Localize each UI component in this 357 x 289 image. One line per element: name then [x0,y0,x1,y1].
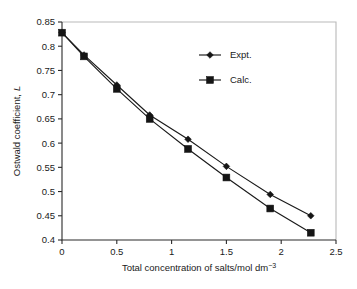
y-tick-label: 0.45 [37,210,56,221]
y-tick-label: 0.7 [42,89,55,100]
y-tick-label: 0.85 [37,16,56,27]
y-tick-label: 0.75 [37,65,56,76]
data-point-square [146,115,153,122]
legend-marker-square [207,77,214,84]
legend-entry-expt: Expt. [199,49,252,60]
x-tick-label: 0.5 [110,246,123,257]
data-point-square [81,53,88,60]
data-point-square [59,29,66,36]
data-point-diamond [307,212,314,219]
y-axis-tick-labels: 0.40.450.50.550.60.650.70.750.80.85 [37,16,56,245]
y-tick-label: 0.8 [42,41,55,52]
y-tick-label: 0.65 [37,113,56,124]
chart-canvas: 0.40.450.50.550.60.650.70.750.80.85 00.5… [0,0,357,289]
x-tick-label: 1 [169,246,174,257]
legend-label: Expt. [230,49,252,60]
chart-legend: Expt.Calc. [199,49,252,85]
data-point-square [223,174,230,181]
y-tick-label: 0.6 [42,138,55,149]
series-calc [59,29,315,236]
y-tick-label: 0.5 [42,186,55,197]
data-point-square [113,85,120,92]
series-line [62,33,311,233]
data-series-layer [59,29,315,236]
x-tick-label: 2.5 [329,246,342,257]
x-tick-label: 2 [279,246,284,257]
x-tick-label: 0 [59,246,64,257]
y-tick-label: 0.4 [42,234,55,245]
legend-label: Calc. [230,74,252,85]
data-point-square [307,229,314,236]
legend-entry-calc: Calc. [199,74,252,85]
x-axis-title: Total concentration of salts/mol dm−3 [122,262,276,273]
y-tick-label: 0.55 [37,162,56,173]
y-axis-ticks [58,22,62,240]
x-axis-ticks [62,240,336,244]
y-axis-title: Ostwald coefficient,L [11,86,22,177]
legend-marker-diamond [207,52,214,59]
series-expt [59,29,314,219]
data-point-square [185,146,192,153]
data-point-diamond [267,191,274,198]
series-line [62,33,311,216]
x-tick-label: 1.5 [220,246,233,257]
x-axis-tick-labels: 00.511.522.5 [59,246,342,257]
chart-figure: 0.40.450.50.550.60.650.70.750.80.85 00.5… [0,0,357,289]
data-point-square [267,205,274,212]
